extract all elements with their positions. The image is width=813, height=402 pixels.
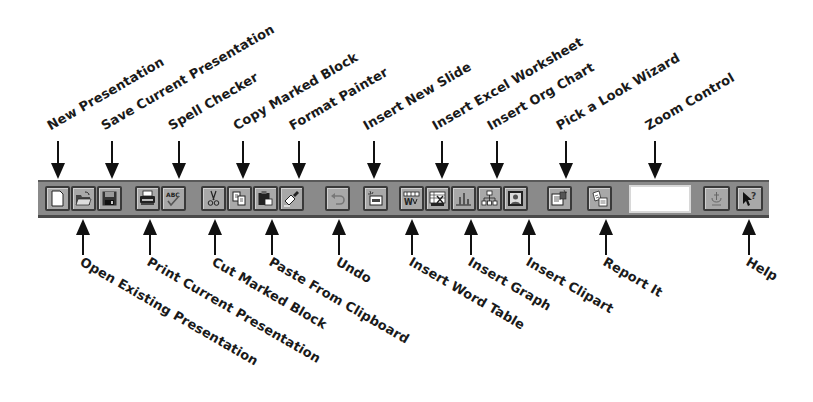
svg-text:?: ? [751, 191, 756, 201]
print-presentation-button[interactable] [135, 186, 160, 211]
bar-graph-icon [455, 190, 472, 207]
scissors-icon [205, 190, 222, 207]
open-presentation-button[interactable] [71, 186, 96, 211]
arrow-up-icon [149, 233, 151, 255]
insert-graph-button[interactable] [451, 186, 476, 211]
spell-checker-button[interactable]: ABC [161, 186, 186, 211]
clipboard-icon [257, 190, 274, 207]
word-table-icon: W [403, 190, 420, 207]
anchor-button[interactable] [703, 186, 730, 211]
org-chart-icon [481, 190, 498, 207]
printer-icon [139, 190, 156, 207]
label-help: Help [744, 254, 781, 284]
zoom-control-input[interactable] [629, 185, 691, 213]
cut-button[interactable] [201, 186, 226, 211]
powerpoint-toolbar: ABC W ? [38, 180, 769, 218]
undo-button[interactable] [325, 186, 350, 211]
new-presentation-button[interactable] [45, 186, 70, 211]
report-icon [591, 190, 608, 207]
arrow-up-icon [214, 233, 216, 255]
wizard-icon [551, 190, 568, 207]
anchor-icon [708, 190, 725, 207]
arrow-down-icon [565, 141, 567, 165]
insert-excel-worksheet-button[interactable] [425, 186, 450, 211]
arrow-down-icon [373, 141, 375, 165]
arrow-down-icon [496, 141, 498, 165]
arrow-down-icon [111, 141, 113, 165]
help-button[interactable]: ? [736, 186, 763, 211]
paintbrush-icon [283, 190, 300, 207]
arrow-up-icon [605, 233, 607, 255]
label-zoom-control: Zoom Control [643, 70, 737, 133]
clipart-icon [507, 190, 524, 207]
insert-word-table-button[interactable]: W [399, 186, 424, 211]
report-it-button[interactable] [587, 186, 612, 211]
spell-check-icon: ABC [165, 190, 182, 207]
arrow-down-icon [441, 141, 443, 165]
copy-button[interactable] [227, 186, 252, 211]
arrow-down-icon [178, 141, 180, 165]
arrow-up-icon [338, 233, 340, 255]
insert-org-chart-button[interactable] [477, 186, 502, 211]
label-report-it: Report It [601, 254, 666, 300]
folder-open-icon [75, 190, 92, 207]
insert-new-slide-button[interactable] [363, 186, 388, 211]
format-painter-button[interactable] [279, 186, 304, 211]
insert-clipart-button[interactable] [503, 186, 528, 211]
arrow-up-icon [411, 233, 413, 255]
excel-worksheet-icon [429, 190, 446, 207]
arrow-up-icon [748, 233, 750, 255]
arrow-up-icon [470, 233, 472, 255]
new-slide-icon [367, 190, 384, 207]
arrow-down-icon [298, 141, 300, 165]
help-pointer-icon: ? [741, 190, 758, 207]
arrow-up-icon [271, 233, 273, 255]
undo-icon [329, 190, 346, 207]
save-presentation-button[interactable] [97, 186, 122, 211]
arrow-up-icon [82, 233, 84, 255]
paste-button[interactable] [253, 186, 278, 211]
pick-a-look-wizard-button[interactable] [547, 186, 572, 211]
arrow-down-icon [654, 141, 656, 165]
arrow-down-icon [57, 141, 59, 165]
new-page-icon [49, 190, 66, 207]
copy-icon [231, 190, 248, 207]
arrow-down-icon [242, 141, 244, 165]
arrow-up-icon [528, 233, 530, 255]
label-undo: Undo [334, 254, 375, 286]
svg-text:W: W [404, 198, 413, 207]
floppy-disk-icon [101, 190, 118, 207]
